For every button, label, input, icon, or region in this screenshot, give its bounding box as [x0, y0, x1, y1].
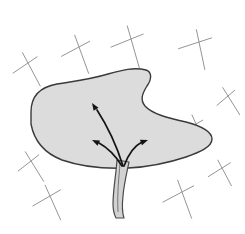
cross-mark-8-stroke-2	[163, 186, 194, 202]
cross-mark-7-stroke-2	[33, 190, 61, 206]
cross-mark-8	[163, 180, 194, 218]
cross-mark-1	[13, 53, 40, 86]
illustration-canvas: A gray shaded leaf-like blade supported …	[0, 0, 245, 234]
cross-mark-2-stroke-2	[62, 41, 90, 56]
cross-mark-2-stroke-1	[75, 35, 89, 73]
cross-mark-7-stroke-1	[45, 185, 60, 220]
cross-mark-4-stroke-1	[196, 30, 204, 70]
cross-mark-5-stroke-1	[223, 88, 240, 115]
cross-mark-6-stroke-1	[25, 152, 43, 182]
cross-mark-7	[33, 185, 61, 220]
cross-mark-4-stroke-2	[179, 38, 212, 49]
cross-mark-1-stroke-2	[13, 57, 37, 73]
cross-mark-3-stroke-1	[127, 26, 139, 68]
cross-mark-3-stroke-2	[111, 34, 143, 47]
figure-svg	[0, 0, 245, 234]
cross-mark-8-stroke-1	[178, 180, 192, 218]
cross-mark-5	[217, 88, 240, 115]
cross-mark-6	[18, 152, 44, 182]
cross-mark-1-stroke-1	[23, 53, 41, 86]
leaf-blade	[31, 69, 212, 168]
cross-mark-9	[208, 160, 231, 186]
cross-mark-2	[62, 35, 90, 73]
cross-mark-4	[179, 30, 212, 70]
cross-mark-9-stroke-2	[208, 163, 230, 177]
cross-mark-3	[111, 26, 143, 68]
